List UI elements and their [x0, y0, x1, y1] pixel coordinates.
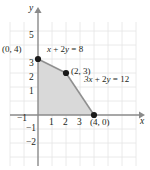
- point-label-0-4: (0, 4): [2, 45, 22, 54]
- y-tick-1: 1: [29, 87, 34, 97]
- equation-label-line1: x + 2y = 8: [47, 45, 83, 54]
- coordinate-plane: [0, 0, 150, 170]
- y-tick-2: 2: [29, 73, 34, 83]
- eq2-eq12: = 12: [111, 74, 130, 84]
- x-tick-2: 2: [63, 118, 68, 128]
- eq2-3x: 3x: [84, 74, 93, 84]
- y-tick-5: 5: [29, 31, 34, 41]
- x-axis-label: x: [140, 117, 144, 127]
- y-tick-neg-1: −1: [26, 124, 36, 134]
- y-tick-3: 3: [29, 59, 34, 69]
- equation-label-line2: 3x + 2y = 12: [84, 75, 129, 84]
- y-axis-arrowhead: [34, 7, 41, 13]
- eq2-plus2: + 2: [93, 74, 107, 84]
- eq1-plus2: + 2: [51, 44, 65, 54]
- point-2-3: [63, 70, 69, 76]
- y-tick-neg-2: −2: [26, 138, 36, 148]
- point-label-4-0: (4, 0): [90, 118, 110, 127]
- point-0-4: [35, 56, 41, 62]
- x-tick-1: 1: [49, 118, 54, 128]
- graph-figure: y x 1 2 3 −1 5 3 2 1 −1 −2 (0, 4) (2, 3)…: [0, 0, 150, 170]
- eq1-eq8: = 8: [69, 44, 83, 54]
- x-tick-3: 3: [77, 118, 82, 128]
- y-axis-label: y: [29, 4, 33, 14]
